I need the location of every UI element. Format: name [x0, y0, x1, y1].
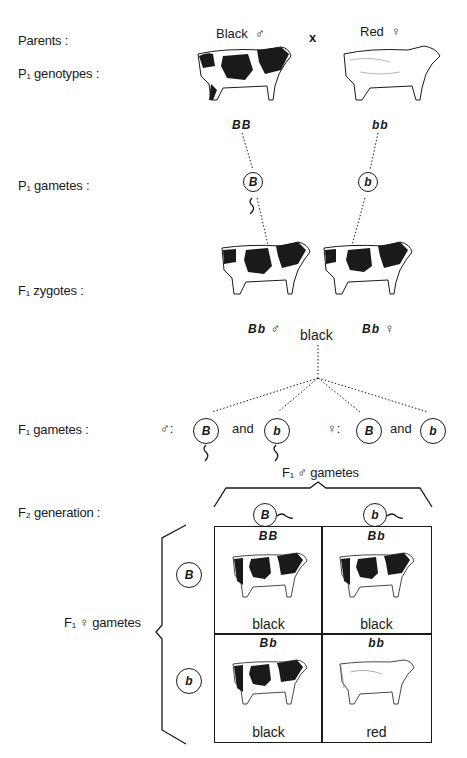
row-label-p1-gametes: P₁ gametes :: [18, 178, 89, 193]
row-label-f2-generation: F₂ generation :: [18, 505, 100, 520]
black-cow-image: [229, 658, 309, 708]
punnett-row-gamete-b: b: [176, 668, 202, 694]
f1-male-genotype-label: Bb ♂: [248, 319, 280, 337]
female-symbol-icon: ♀: [384, 321, 394, 336]
f1-female-genotype-label: Bb ♀: [362, 319, 394, 337]
black-cow-image: [229, 551, 309, 601]
f1-phenotype: black: [300, 327, 333, 343]
black-cow-image: [336, 551, 416, 601]
f1-male-bull-image: [218, 240, 314, 298]
row-label-p1-genotypes: P₁ genotypes :: [18, 66, 99, 81]
punnett-col-gamete-b: b: [363, 503, 387, 527]
punnett-cell-Bb-top: Bb black: [321, 526, 432, 635]
f1-male-gamete-b: b: [264, 418, 290, 444]
and-text: and: [390, 421, 412, 436]
and-text: and: [232, 421, 254, 436]
punnett-cell-Bb-bottom: Bb black: [214, 633, 323, 743]
male-symbol-icon: ♂: [255, 26, 265, 41]
female-symbol-icon: ♀: [391, 24, 401, 39]
punnett-cell-BB: BB black: [214, 526, 323, 635]
punnett-column-header: F₁ ♂ gametes: [282, 465, 359, 480]
f1-female-cow-image: [320, 240, 416, 298]
f1-female-gamete-b: b: [420, 418, 446, 444]
row-label-f1-zygotes: F₁ zygotes :: [18, 283, 84, 298]
p1-female-genotype: bb: [372, 118, 389, 132]
punnett-row-gamete-B: B: [176, 562, 202, 588]
punnett-col-gamete-B: B: [253, 503, 277, 527]
punnett-cell-bb: bb red: [321, 633, 432, 743]
row-label-f1-gametes: F₁ gametes :: [18, 422, 89, 437]
row-label-parents: Parents :: [18, 33, 68, 48]
male-symbol-icon: ♂: [270, 321, 280, 336]
punnett-row-header: F₁ ♀ gametes: [64, 615, 141, 630]
red-cow-image: [340, 42, 445, 106]
f1-female-gametes-symbol: ♀:: [327, 421, 340, 436]
p1-male-genotype: BB: [232, 118, 251, 132]
parent-female-label: Red ♀: [360, 24, 401, 39]
p1-female-gamete: b: [358, 172, 378, 192]
f1-male-gamete-B: B: [193, 418, 219, 444]
cross-symbol: x: [309, 30, 316, 45]
f1-female-gamete-B: B: [356, 418, 382, 444]
parent-male-label: Black ♂: [216, 26, 265, 41]
f1-male-gametes-symbol: ♂:: [160, 421, 173, 436]
p1-male-gamete: B: [243, 172, 263, 192]
black-bull-image: [193, 44, 298, 106]
red-cow-image: [336, 658, 416, 708]
